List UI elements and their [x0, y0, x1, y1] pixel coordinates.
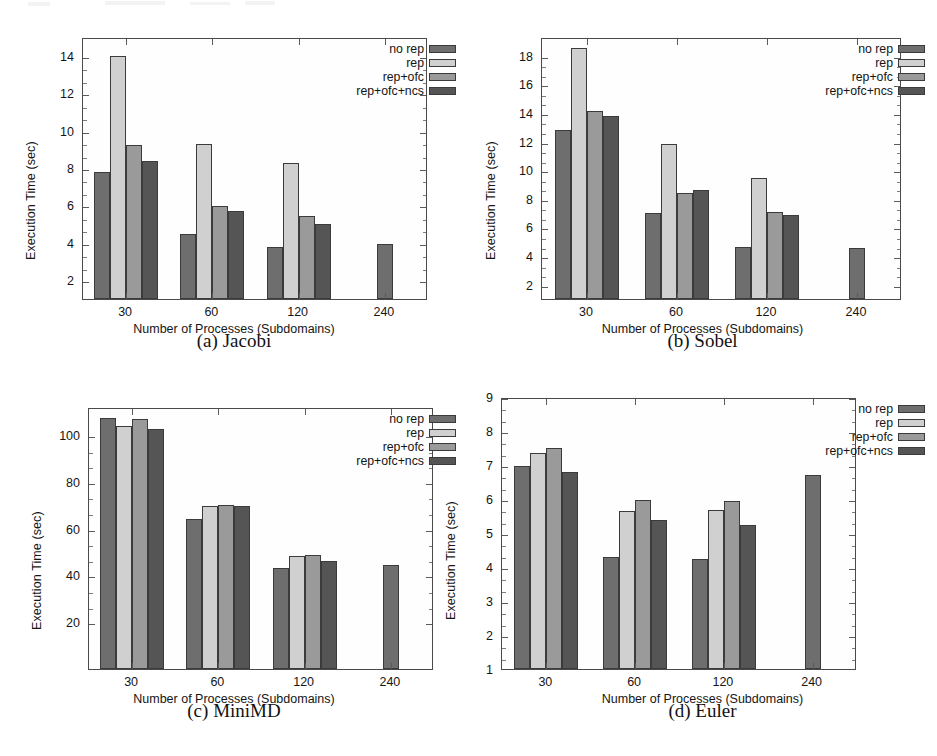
- y-tick-mark: [849, 501, 855, 502]
- y-tick-label: 3: [453, 595, 493, 609]
- bar: [315, 224, 331, 299]
- y-minor-tick-mark: [542, 191, 546, 192]
- legend-color-swatch: [429, 457, 456, 465]
- y-minor-tick-mark: [83, 120, 87, 121]
- x-tick-label: 240: [379, 675, 400, 689]
- y-tick-label: 2: [493, 279, 533, 293]
- x-tick-mark: [587, 293, 588, 299]
- x-tick-mark: [212, 39, 213, 45]
- y-tick-mark: [849, 603, 855, 604]
- y-tick-mark: [426, 531, 432, 532]
- legend-item-label: rep: [875, 417, 893, 429]
- chart-panel-sobel: Execution Time (sec)24681012141618306012…: [468, 0, 937, 378]
- y-minor-tick-mark: [542, 210, 546, 211]
- y-minor-tick-mark: [89, 453, 93, 454]
- y-tick-mark: [542, 229, 548, 230]
- bar: [645, 213, 661, 299]
- y-minor-tick-mark: [83, 70, 87, 71]
- legend-item-label: rep+ofc: [852, 71, 893, 83]
- y-tick-label: 6: [453, 493, 493, 507]
- y-tick-mark: [89, 577, 95, 578]
- y-minor-tick-mark: [542, 67, 546, 68]
- bar: [651, 520, 667, 669]
- y-minor-tick-mark: [83, 270, 87, 271]
- y-minor-tick-mark: [429, 515, 433, 516]
- legend-item: rep: [875, 57, 925, 69]
- y-tick-mark: [542, 287, 548, 288]
- y-tick-label: 2: [453, 629, 493, 643]
- y-minor-tick-mark: [542, 220, 546, 221]
- y-minor-tick-mark: [423, 145, 427, 146]
- x-tick-mark: [305, 409, 306, 415]
- y-minor-tick-mark: [542, 268, 546, 269]
- bar: [273, 568, 289, 669]
- y-tick-mark: [420, 207, 426, 208]
- y-tick-label: 8: [453, 425, 493, 439]
- bar: [283, 163, 299, 299]
- bar: [692, 559, 708, 669]
- chart-legend: no repreprep+ofcrep+ofc+ncs: [825, 403, 925, 457]
- y-minor-tick-mark: [83, 220, 87, 221]
- y-tick-mark: [894, 172, 900, 173]
- y-tick-mark: [849, 637, 855, 638]
- y-minor-tick-mark: [502, 524, 506, 525]
- legend-item: rep+ofc+ncs: [825, 85, 925, 97]
- bar: [116, 426, 132, 669]
- y-minor-tick-mark: [423, 257, 427, 258]
- x-tick-mark: [767, 293, 768, 299]
- y-tick-label: 40: [40, 569, 80, 583]
- y-minor-tick-mark: [502, 660, 506, 661]
- legend-item: no rep: [389, 413, 456, 425]
- chart-panel-minimd: Execution Time (sec)20406080100306012024…: [0, 378, 468, 756]
- x-tick-label: 30: [118, 305, 132, 319]
- y-minor-tick-mark: [429, 499, 433, 500]
- x-tick-mark: [724, 663, 725, 669]
- y-tick-label: 7: [453, 459, 493, 473]
- y-tick-mark: [542, 58, 548, 59]
- y-minor-tick-mark: [429, 546, 433, 547]
- bar: [708, 510, 724, 669]
- y-tick-mark: [426, 577, 432, 578]
- legend-item: rep: [406, 427, 456, 439]
- y-minor-tick-mark: [542, 239, 546, 240]
- y-tick-mark: [83, 245, 89, 246]
- x-tick-label: 120: [293, 675, 314, 689]
- x-tick-label: 30: [579, 305, 593, 319]
- y-minor-tick-mark: [897, 153, 901, 154]
- subfigure-caption: (a) Jacobi: [0, 330, 468, 352]
- y-tick-mark: [83, 207, 89, 208]
- x-tick-label: 60: [204, 305, 218, 319]
- y-minor-tick-mark: [423, 232, 427, 233]
- legend-item: rep: [875, 417, 925, 429]
- legend-color-swatch: [898, 87, 925, 95]
- y-tick-label: 20: [40, 616, 80, 630]
- y-minor-tick-mark: [423, 158, 427, 159]
- y-minor-tick-mark: [852, 558, 856, 559]
- x-tick-mark: [391, 663, 392, 669]
- bar: [110, 56, 126, 299]
- bar: [196, 144, 212, 299]
- y-minor-tick-mark: [502, 478, 506, 479]
- y-minor-tick-mark: [502, 592, 506, 593]
- bar: [693, 190, 709, 299]
- y-minor-tick-mark: [852, 626, 856, 627]
- bar: [724, 501, 740, 669]
- y-tick-mark: [89, 531, 95, 532]
- x-tick-label: 30: [124, 675, 138, 689]
- y-tick-mark: [502, 467, 508, 468]
- y-tick-label: 4: [453, 561, 493, 575]
- chart-panel-euler: Execution Time (sec)1234567893060120240N…: [468, 378, 937, 756]
- y-tick-label: 5: [453, 527, 493, 541]
- y-tick-label: 2: [34, 274, 74, 288]
- y-minor-tick-mark: [502, 410, 506, 411]
- y-tick-mark: [849, 569, 855, 570]
- y-minor-tick-mark: [897, 220, 901, 221]
- y-tick-mark: [542, 144, 548, 145]
- chart-legend: no repreprep+ofcrep+ofc+ncs: [825, 43, 925, 97]
- x-tick-mark: [635, 663, 636, 669]
- y-minor-tick-mark: [429, 468, 433, 469]
- y-tick-mark: [89, 484, 95, 485]
- plot-frame: [501, 398, 856, 670]
- chart-panel-jacobi: Execution Time (sec)24681012143060120240…: [0, 0, 468, 378]
- y-minor-tick-mark: [852, 580, 856, 581]
